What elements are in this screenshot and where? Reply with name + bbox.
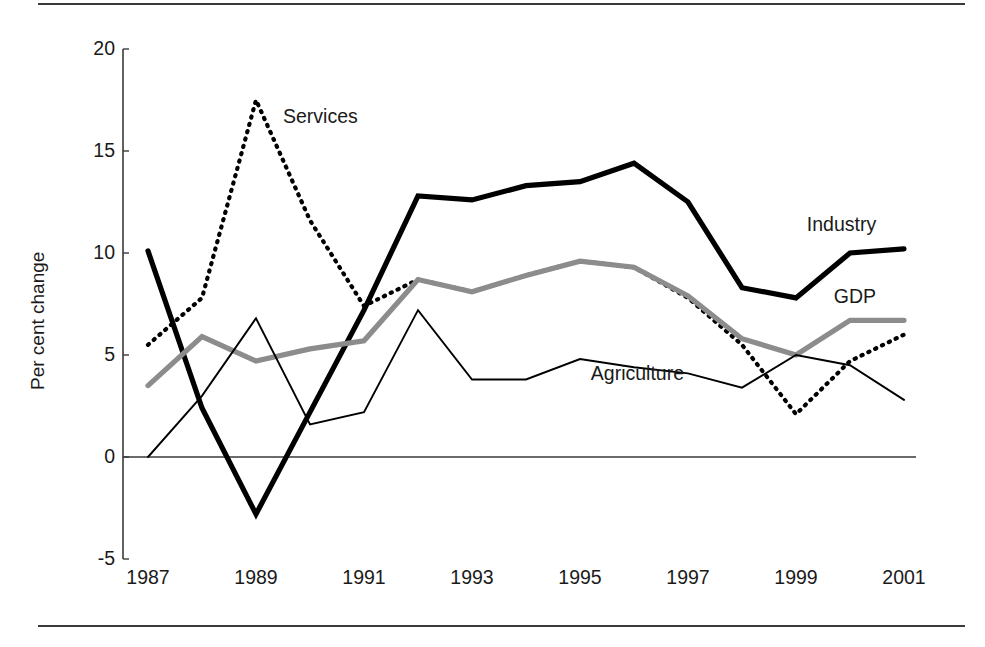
x-tick-label: 1997 bbox=[648, 568, 728, 588]
x-tick-label: 2001 bbox=[864, 568, 944, 588]
y-tick-label: 10 bbox=[93, 243, 115, 263]
series-annotation-gdp: GDP bbox=[834, 287, 876, 307]
y-tick-label: 5 bbox=[104, 345, 115, 365]
x-tick-label: 1987 bbox=[108, 568, 188, 588]
y-tick-label: 15 bbox=[93, 141, 115, 161]
series-line-industry bbox=[148, 163, 904, 514]
chart-figure: Per cent change 20151050-5 1987198919911… bbox=[0, 0, 985, 647]
plot-area bbox=[0, 0, 985, 647]
y-tick-label: 0 bbox=[104, 447, 115, 467]
x-tick-label: 1995 bbox=[540, 568, 620, 588]
series-annotation-services: Services bbox=[283, 107, 358, 127]
x-tick-label: 1989 bbox=[216, 568, 296, 588]
y-axis-title: Per cent change bbox=[28, 252, 47, 390]
y-tick-label: -5 bbox=[98, 549, 115, 569]
series-line-gdp bbox=[148, 261, 904, 385]
series-group bbox=[148, 100, 904, 514]
x-tick-label: 1993 bbox=[432, 568, 512, 588]
series-line-agriculture bbox=[148, 310, 904, 457]
series-annotation-agriculture: Agriculture bbox=[591, 364, 684, 384]
x-tick-label: 1999 bbox=[756, 568, 836, 588]
x-tick-label: 1991 bbox=[324, 568, 404, 588]
series-line-services bbox=[148, 100, 904, 414]
series-annotation-industry: Industry bbox=[807, 215, 876, 235]
y-tick-label: 20 bbox=[93, 39, 115, 59]
